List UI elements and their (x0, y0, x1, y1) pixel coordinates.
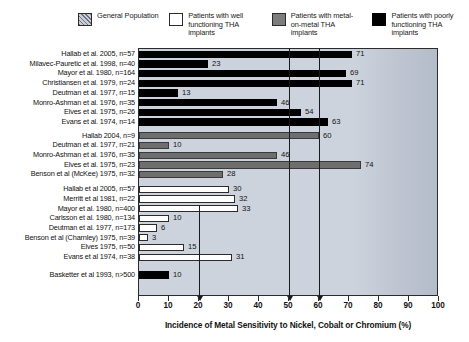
legend-item-well-functioning: Patients with well functioning THA impla… (169, 12, 262, 38)
bar (139, 205, 238, 212)
row-category-label: Deutman et al. 1977, n=21 (0, 140, 135, 150)
row-category-label: Elves et al. 1975, n=26 (0, 107, 135, 117)
gray-swatch (272, 13, 286, 26)
legend-item-general-population: General Population (78, 12, 159, 26)
axis-tick-label: 0 (125, 301, 151, 310)
bar (139, 195, 235, 202)
row-category-label: Hallab 2004, n=9 (0, 131, 135, 141)
legend-item-metal-on-metal: Patients with metal-on-metal THA implant… (272, 12, 363, 38)
bar-value-label: 15 (188, 242, 196, 252)
white-swatch (169, 13, 183, 26)
reference-arrow-50 (289, 48, 290, 296)
axis-tick-label: 20 (185, 301, 211, 310)
axis-tick-label: 90 (395, 301, 421, 310)
axis-tick-label: 30 (215, 301, 241, 310)
bar (139, 171, 223, 178)
bar-value-label: 3 (152, 233, 156, 243)
axis-tick-label: 80 (365, 301, 391, 310)
bar-value-label: 32 (239, 194, 247, 204)
row-category-label: Hallab et al. 2005, n=57 (0, 49, 135, 59)
bar (139, 244, 184, 251)
legend-item-poorly-functioning: Patients with poorly functioning THA imp… (372, 12, 463, 38)
reference-arrow-60 (319, 48, 320, 296)
bar (139, 60, 208, 67)
chart-figure: General Population Patients with well fu… (0, 0, 469, 342)
row-category-label: Milavec-Pauretic et al. 1998, n=40 (0, 59, 135, 69)
row-category-label: Carlsson et al. 1980, n=134 (0, 213, 135, 223)
bar (139, 132, 319, 139)
chart-legend: General Population Patients with well fu… (78, 12, 463, 48)
bar-value-label: 71 (356, 49, 364, 59)
bar (139, 271, 169, 278)
axis-tick-label: 50 (275, 301, 301, 310)
bar-value-label: 31 (236, 252, 244, 262)
axis-tick-label: 40 (245, 301, 271, 310)
bar-value-label: 74 (365, 160, 373, 170)
bar (139, 109, 301, 116)
row-category-label: Evans et al. 1974, n=14 (0, 117, 135, 127)
bar (139, 215, 169, 222)
legend-label-metal-on-metal: Patients with metal-on-metal THA implant… (291, 12, 363, 38)
legend-label-well-functioning: Patients with well functioning THA impla… (188, 12, 262, 38)
bar-value-label: 71 (356, 78, 364, 88)
bar-value-label: 63 (332, 117, 340, 127)
row-category-label: Christiansen et al. 1979, n=24 (0, 78, 135, 88)
bar (139, 254, 232, 261)
bar-value-label: 69 (350, 68, 358, 78)
bar (139, 80, 352, 87)
x-axis-label: Incidence of Metal Sensitivity to Nickel… (138, 320, 438, 330)
bar-value-label: 28 (227, 169, 235, 179)
legend-label-general-population: General Population (97, 12, 158, 21)
row-category-label: Elves 1975, n=50 (0, 242, 135, 252)
black-swatch (372, 13, 386, 26)
row-category-label: Deutman et al. 1977, n=15 (0, 88, 135, 98)
row-category-label: Benson et al (McKee) 1975, n=32 (0, 169, 135, 179)
bar (139, 89, 178, 96)
bar-value-label: 10 (173, 140, 181, 150)
bar-value-label: 10 (173, 213, 181, 223)
bar-value-label: 23 (212, 59, 220, 69)
general-population-swatch (78, 13, 92, 26)
row-category-label: Monro-Ashman et al. 1976, n=35 (0, 98, 135, 108)
bar (139, 70, 346, 77)
bar (139, 186, 229, 193)
bar-value-label: 33 (242, 204, 250, 214)
axis-tick-label: 70 (335, 301, 361, 310)
axis-tick-label: 100 (425, 301, 451, 310)
chart-row: Benson et al (McKee) 1975, n=3228 (0, 170, 469, 180)
bar-value-label: 13 (182, 88, 190, 98)
axis-tick-label: 60 (305, 301, 331, 310)
row-category-label: Mayor et al. 1980, n=164 (0, 68, 135, 78)
chart-row: Evans et al 1974, n=3831 (0, 253, 469, 263)
row-category-label: Benson et al (Charnley) 1975, n=39 (0, 233, 135, 243)
reference-arrow-20 (199, 205, 200, 296)
x-axis: 0102030405060708090100 (138, 296, 438, 302)
bar (139, 161, 361, 168)
bar (139, 152, 277, 159)
bar (139, 118, 328, 125)
bar (139, 234, 148, 241)
bar-value-label: 60 (323, 131, 331, 141)
row-category-label: Deutman et al. 1977, n=173 (0, 223, 135, 233)
bar-value-label: 54 (305, 107, 313, 117)
legend-label-poorly-functioning: Patients with poorly functioning THA imp… (391, 12, 463, 38)
bar-rows: Hallab et al. 2005, n=5771Milavec-Pauret… (0, 48, 469, 296)
bar (139, 142, 169, 149)
row-category-label: Monro-Ashman et al. 1976, n=35 (0, 150, 135, 160)
bar-value-label: 30 (233, 184, 241, 194)
row-category-label: Elves et al. 1975, n=23 (0, 160, 135, 170)
row-category-label: Hallab et al 2005, n=57 (0, 184, 135, 194)
bar-value-label: 6 (161, 223, 165, 233)
bar (139, 224, 157, 231)
chart-row: Evans et al. 1974, n=1463 (0, 117, 469, 127)
row-category-label: Evans et al 1974, n=38 (0, 252, 135, 262)
bar (139, 51, 352, 58)
bar-value-label: 10 (173, 270, 181, 280)
bar (139, 99, 277, 106)
chart-row: Basketter et al 1993, n>50010 (0, 270, 469, 280)
row-category-label: Merritt et al 1981, n=22 (0, 194, 135, 204)
axis-tick-label: 10 (155, 301, 181, 310)
row-category-label: Basketter et al 1993, n>500 (0, 270, 135, 280)
row-category-label: Mayor et al. 1980, n=400 (0, 204, 135, 214)
